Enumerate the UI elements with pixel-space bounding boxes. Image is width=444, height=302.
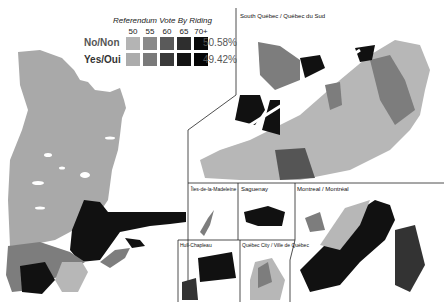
legend-no-percent: 50.58% — [203, 37, 237, 48]
legend-swatch-yes-50 — [125, 52, 141, 67]
legend-swatch-no-60 — [159, 36, 175, 51]
legend-swatch-no-65 — [176, 36, 192, 51]
panel-title-hull: Hull-Chapleau — [180, 242, 212, 248]
legend-tick: 55 — [142, 27, 158, 36]
legend-yes-label: Yes/Oui — [84, 54, 121, 65]
montreal-map-mid — [305, 212, 325, 232]
legend-yes-percent: 49.42% — [203, 54, 237, 65]
montreal-map-right — [395, 225, 425, 292]
legend-tick: 50 — [125, 27, 141, 36]
legend-title: Referendum Vote By Riding — [113, 16, 212, 25]
south-panel-dark-2 — [235, 95, 265, 125]
legend-swatch-yes-60 — [159, 52, 175, 67]
legend-swatch-no-55 — [142, 36, 158, 51]
legend-swatch-yes-65 — [176, 52, 192, 67]
hull-map-2 — [182, 278, 198, 300]
legend-no-label: No/Non — [84, 37, 120, 48]
saguenay-map — [244, 206, 285, 226]
panel-title-madeleine: Îles-de-la-Madeleine — [191, 186, 236, 192]
hull-map — [198, 252, 236, 282]
anticosti-island — [125, 238, 145, 248]
legend-swatch-yes-55 — [142, 52, 158, 67]
cote-nord-region — [70, 200, 186, 262]
panel-title-south: South Québec / Québec du Sud — [240, 13, 325, 19]
south-panel-dark-4 — [355, 45, 375, 62]
legend-tick: 65 — [176, 27, 192, 36]
south-panel-dark-1 — [300, 55, 325, 78]
panel-title-montreal: Montreal / Montréal — [297, 186, 349, 192]
legend-tick: 70+ — [193, 27, 209, 36]
south-panel-mid-1 — [258, 42, 300, 90]
legend-swatch-no-50 — [125, 36, 141, 51]
madeleine-map — [200, 210, 214, 236]
panel-title-saguenay: Saguenay — [241, 186, 268, 192]
legend-tick: 60 — [159, 27, 175, 36]
panel-title-quebec-city: Québec City / Ville de Québec — [242, 242, 309, 248]
